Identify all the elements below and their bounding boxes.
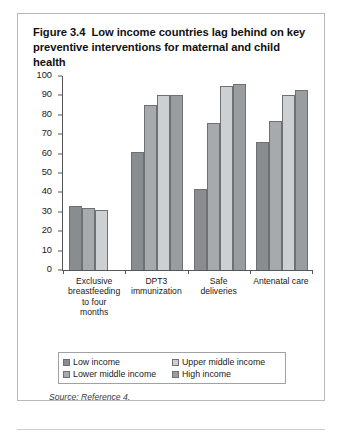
bar-group (125, 76, 187, 270)
bar (220, 86, 233, 270)
category-label-line: to four (64, 297, 124, 307)
bars-region (63, 76, 312, 270)
x-axis-tick-mark (312, 270, 313, 274)
category-label: Antenatal care (250, 276, 312, 318)
y-axis-tick-label: 60 (42, 149, 52, 158)
chart-legend: Low incomeUpper middle incomeLower middl… (58, 352, 286, 384)
category-label-line: Exclusive (64, 276, 124, 286)
y-axis-tick-mark (58, 211, 62, 212)
category-label: DPT3immunization (125, 276, 187, 318)
bar (256, 142, 269, 270)
chart-plot-area: 0102030405060708090100 Exclusivebreastfe… (31, 76, 314, 291)
y-axis: 0102030405060708090100 (31, 76, 58, 270)
category-label-line: breastfeeding (64, 286, 124, 296)
bar (233, 84, 246, 270)
y-axis-tick-label: 50 (42, 168, 52, 177)
y-axis-tick-mark (58, 231, 62, 232)
legend-swatch-icon (63, 359, 70, 366)
category-labels: Exclusivebreastfeedingto fourmonthsDPT3i… (63, 276, 312, 318)
legend-item: Upper middle income (172, 356, 281, 368)
x-axis-tick-mark (63, 270, 64, 274)
legend-label: Upper middle income (182, 356, 265, 368)
figure-container: Figure 3.4 Low income countries lag behi… (17, 13, 325, 401)
legend-swatch-icon (172, 371, 179, 378)
legend-label: High income (182, 368, 231, 380)
category-label-line: deliveries (189, 286, 249, 296)
category-label-line: immunization (126, 286, 186, 296)
bar (170, 95, 183, 270)
figure-number: Figure 3.4 (33, 26, 85, 38)
y-axis-tick-label: 0 (47, 265, 52, 274)
x-axis-tick-mark (250, 270, 251, 274)
y-axis-tick-label: 100 (36, 71, 52, 80)
category-label: Exclusivebreastfeedingto fourmonths (63, 276, 125, 318)
bar (157, 95, 170, 270)
bar (131, 152, 144, 270)
y-axis-tick-label: 30 (42, 207, 52, 216)
y-axis-tick-mark (58, 153, 62, 154)
y-axis-tick-mark (58, 173, 62, 174)
footer-divider (17, 429, 325, 430)
legend-item: Lower middle income (63, 368, 172, 380)
bar (82, 208, 95, 270)
x-axis-tick-mark (125, 270, 126, 274)
legend-item: High income (172, 368, 281, 380)
y-axis-tick-label: 80 (42, 110, 52, 119)
category-label-line: DPT3 (126, 276, 186, 286)
legend-label: Lower middle income (73, 368, 156, 380)
bar (282, 95, 295, 270)
category-label-line: Antenatal care (251, 276, 311, 286)
legend-item: Low income (63, 356, 172, 368)
category-label-line: months (64, 307, 124, 317)
legend-swatch-icon (63, 371, 70, 378)
legend-swatch-icon (172, 359, 179, 366)
y-axis-tick-mark (58, 114, 62, 115)
y-axis-tick-mark (58, 95, 62, 96)
bar (69, 206, 82, 270)
bar (194, 189, 207, 270)
y-axis-tick-label: 40 (42, 188, 52, 197)
y-axis-tick-label: 10 (42, 246, 52, 255)
y-axis-tick-mark (58, 192, 62, 193)
category-label: Safedeliveries (188, 276, 250, 318)
y-axis-tick-label: 70 (42, 130, 52, 139)
bar (144, 105, 157, 270)
legend-label: Low income (73, 356, 120, 368)
source-note: Source: Reference 4. (49, 392, 130, 403)
y-axis-tick-label: 90 (42, 91, 52, 100)
y-axis-tick-mark (58, 270, 62, 271)
y-axis-tick-mark (58, 250, 62, 251)
bar (207, 123, 220, 270)
bar (269, 121, 282, 270)
bar (295, 90, 308, 270)
bar-group (250, 76, 312, 270)
y-axis-tick-mark (58, 134, 62, 135)
figure-title: Figure 3.4 Low income countries lag behi… (33, 25, 314, 71)
bar-group (63, 76, 125, 270)
y-axis-tick-mark (58, 76, 62, 77)
y-axis-tick-label: 20 (42, 227, 52, 236)
x-axis-tick-mark (188, 270, 189, 274)
bar-group (188, 76, 250, 270)
bar (95, 210, 108, 270)
category-label-line: Safe (189, 276, 249, 286)
